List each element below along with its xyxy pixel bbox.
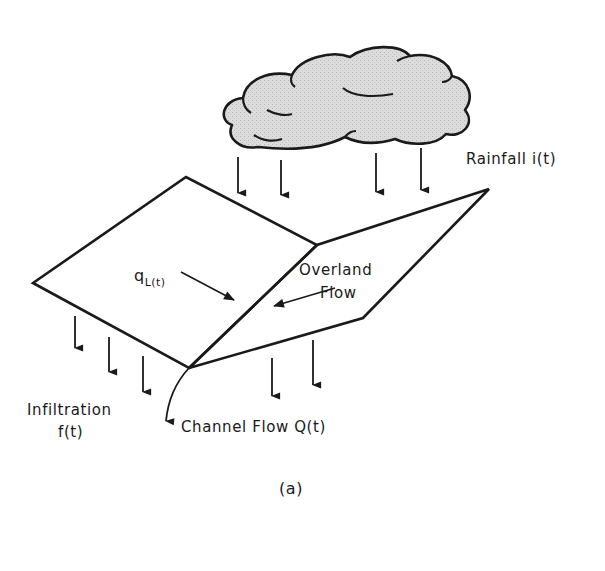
rain-arrows [238, 148, 421, 195]
infiltration-arrows [75, 316, 313, 396]
lateral-inflow-label: qL(t) [134, 268, 165, 284]
infiltration-label-line1: Infiltration [27, 403, 112, 418]
infiltration-argument: (t) [64, 423, 83, 441]
overland-flow-label-line2: Flow [320, 286, 357, 301]
rain-cloud-icon [224, 47, 470, 149]
rainfall-label: Rainfall i(t) [466, 152, 556, 167]
infiltration-label-line2: f(t) [58, 425, 83, 440]
lateral-inflow-symbol: q [134, 266, 145, 285]
channel-flow-label: Channel Flow Q(t) [181, 420, 326, 435]
overland-flow-label-line1: Overland [299, 263, 372, 278]
lateral-inflow-subscript: L(t) [145, 276, 166, 289]
figure-caption: (a) [279, 481, 303, 497]
channel-flow-arrow-icon [166, 368, 189, 421]
lateral-inflow-arrow-icon [181, 272, 234, 300]
